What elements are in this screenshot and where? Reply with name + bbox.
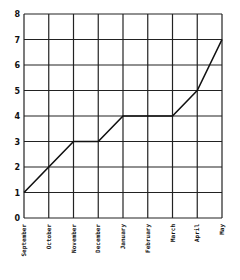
x-tick-label: January	[119, 224, 127, 250]
x-tick-label: February	[144, 224, 152, 253]
y-tick-label: 5	[14, 87, 20, 96]
x-tick-label: October	[45, 224, 52, 250]
x-tick-label: May	[218, 224, 226, 235]
y-tick-label: 6	[14, 61, 20, 70]
y-tick-label: 1	[14, 189, 20, 198]
line-chart: 012345678 SeptemberOctoberNovemberDecemb…	[0, 0, 240, 280]
y-tick-label: 8	[14, 10, 20, 19]
x-tick-label: December	[94, 224, 101, 253]
y-tick-label: 0	[14, 214, 20, 223]
y-tick-label: 4	[14, 112, 20, 121]
x-axis-ticks: SeptemberOctoberNovemberDecemberJanuaryF…	[20, 224, 226, 257]
x-tick-label: November	[70, 224, 77, 253]
x-tick-label: March	[169, 224, 176, 242]
y-axis-ticks: 012345678	[14, 10, 20, 223]
y-tick-label: 3	[14, 138, 20, 147]
x-tick-label: September	[20, 224, 28, 257]
x-tick-label: April	[193, 224, 201, 242]
y-tick-label: 7	[14, 36, 20, 45]
y-tick-label: 2	[14, 163, 20, 172]
